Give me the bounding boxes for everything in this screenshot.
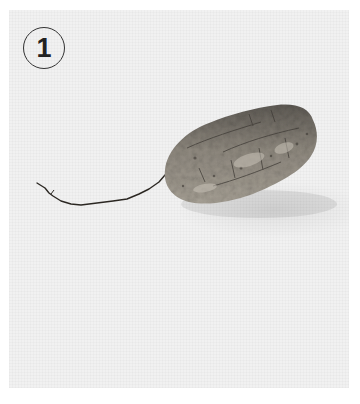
photo: 1 <box>9 10 349 388</box>
tuber-illustration <box>9 10 349 388</box>
tuber <box>165 105 317 204</box>
root-tail <box>37 175 165 205</box>
